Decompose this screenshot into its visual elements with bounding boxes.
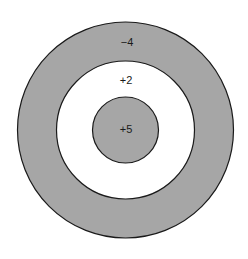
- target-diagram: −4 +2 +5: [0, 0, 248, 259]
- inner-circle-label: +5: [120, 123, 133, 135]
- outer-ring-label: −4: [121, 36, 134, 48]
- middle-ring-label: +2: [120, 74, 133, 86]
